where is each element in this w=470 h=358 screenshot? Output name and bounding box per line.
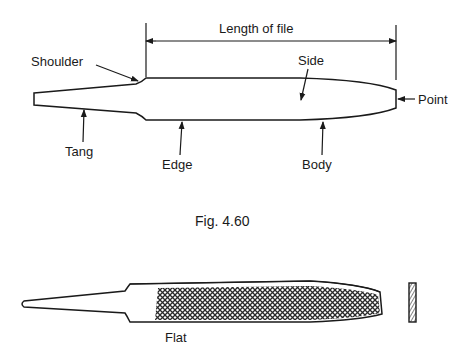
tang-arrow xyxy=(83,110,84,142)
cross-section xyxy=(409,283,416,322)
side-label: Side xyxy=(298,54,324,67)
length-of-file-label: Length of file xyxy=(219,22,293,35)
shoulder-arrow xyxy=(96,65,138,81)
figure-caption: Fig. 4.60 xyxy=(195,214,249,228)
shoulder-label: Shoulder xyxy=(31,55,83,68)
edge-arrow xyxy=(180,122,182,155)
body-arrow xyxy=(322,122,323,155)
point-label: Point xyxy=(418,93,448,106)
flat-file-illustration xyxy=(22,281,416,322)
tang-label: Tang xyxy=(65,145,93,158)
file-outline-diagram xyxy=(34,78,396,120)
edge-label: Edge xyxy=(162,158,192,171)
flat-label: Flat xyxy=(165,331,187,344)
body-label: Body xyxy=(302,158,332,171)
side-arrow xyxy=(301,69,308,100)
